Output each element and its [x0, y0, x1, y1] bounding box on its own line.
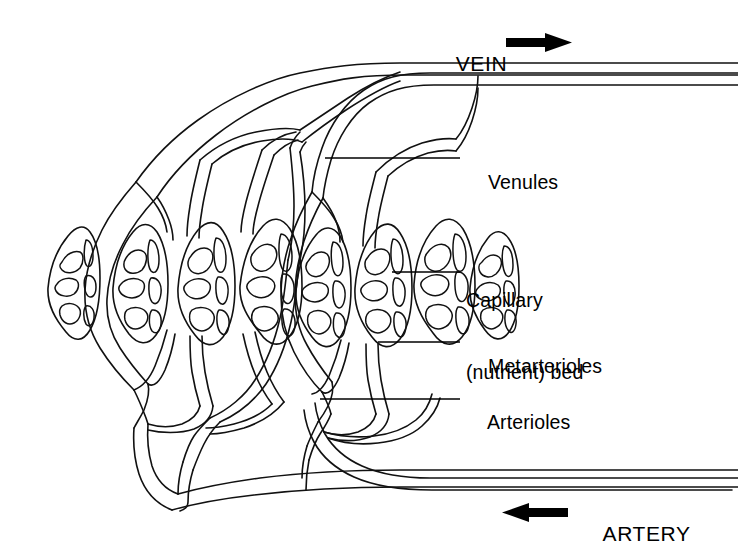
callout-arterioles: Arterioles: [466, 386, 570, 458]
vascular-network-illustration: [0, 0, 738, 544]
callout-venules-line1: Venules: [488, 171, 558, 193]
metarteriole-envelope-left: [85, 182, 157, 428]
capillary-mesh: [119, 240, 161, 333]
capillary-mesh: [421, 234, 469, 334]
callout-metarterioles-line1: Metarterioles: [488, 355, 602, 377]
callout-capillary-bed-line1: Capillary: [466, 288, 583, 312]
capillary-mesh: [184, 238, 229, 334]
capillary-lobe: [178, 223, 235, 345]
capillary-lobe: [48, 227, 100, 339]
callout-leader-lines: [320, 158, 460, 399]
arrow-left-icon: [502, 503, 568, 522]
callout-arterioles-line1: Arterioles: [487, 411, 570, 433]
artery-flow-label-text: ARTERY: [603, 522, 691, 544]
capillary-lobe: [296, 228, 351, 347]
arteriole-gathering-right: [302, 394, 440, 490]
capillary-bed-diagram: VEIN ARTERY Venules Capillary (nutrient)…: [0, 0, 738, 544]
callout-venules: Venules: [466, 146, 558, 218]
vein-flow-label-text: VEIN: [456, 52, 507, 75]
capillary-lobe: [113, 225, 168, 343]
vein-flow-label: VEIN: [430, 28, 507, 100]
arrow-right-icon: [506, 33, 572, 52]
capillary-mesh: [302, 242, 345, 337]
artery-flow-label: ARTERY: [578, 498, 691, 544]
capillary-mesh: [55, 240, 96, 326]
capillary-mesh: [361, 239, 406, 337]
venule-gathering-left: [200, 72, 400, 164]
